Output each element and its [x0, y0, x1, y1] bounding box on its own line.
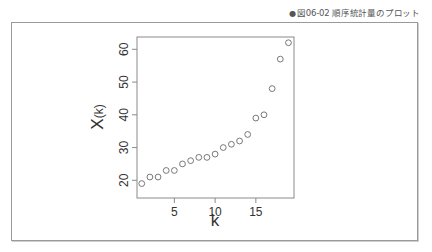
data-point: [188, 158, 194, 164]
y-tick-label: 30: [117, 141, 131, 155]
y-tick-label: 20: [117, 173, 131, 187]
data-point: [163, 168, 169, 174]
y-tick-label: 50: [117, 75, 131, 89]
data-point: [204, 154, 210, 160]
x-tick-label: 15: [249, 205, 263, 219]
scatter-chart: 2030405060 51015 k X(k): [0, 0, 432, 252]
data-point: [171, 168, 177, 174]
plot-area: [137, 37, 294, 198]
y-axis-title-main: X: [88, 118, 107, 129]
data-point: [180, 161, 186, 167]
data-points: [139, 40, 292, 187]
y-axis-title-subscript: (k): [92, 104, 106, 118]
data-point: [286, 40, 292, 46]
data-point: [155, 174, 161, 180]
y-tick-label: 40: [117, 108, 131, 122]
data-point: [237, 138, 243, 144]
svg-text:X(k): X(k): [88, 104, 107, 129]
data-point: [277, 56, 283, 62]
data-point: [229, 141, 235, 147]
y-tick-label: 60: [117, 42, 131, 56]
data-point: [212, 151, 218, 157]
data-point: [261, 112, 267, 118]
data-point: [196, 154, 202, 160]
y-axis-title: X(k): [88, 104, 107, 129]
data-point: [269, 86, 275, 92]
x-axis-title: k: [211, 211, 220, 230]
data-point: [220, 145, 226, 151]
data-point: [253, 115, 259, 121]
data-point: [245, 132, 251, 138]
x-tick-label: 5: [171, 205, 178, 219]
data-point: [147, 174, 153, 180]
data-point: [139, 181, 145, 187]
y-axis: 2030405060: [117, 42, 137, 187]
